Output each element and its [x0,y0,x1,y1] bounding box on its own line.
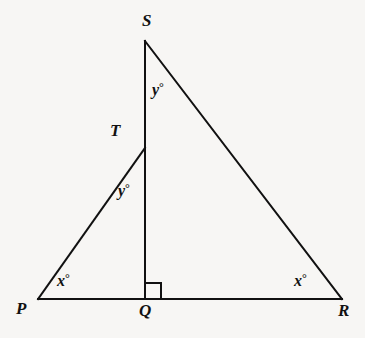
vertex-label-T: T [110,122,120,139]
vertex-label-Q: Q [139,302,151,319]
angle-label-x-at-P: x° [57,272,70,289]
right-angle-marker-at-Q [145,283,161,299]
angle-variable-x: x [57,272,65,289]
degree-sign: ° [302,271,307,285]
vertex-label-P: P [16,300,26,317]
degree-sign: ° [159,80,164,94]
degree-sign: ° [125,181,130,195]
angle-variable-x: x [294,272,302,289]
vertex-label-R: R [338,302,349,319]
diagram-canvas [0,0,365,338]
degree-sign: ° [65,271,70,285]
vertex-label-S: S [142,12,151,29]
angle-label-x-at-R: x° [294,272,307,289]
angle-label-y-at-T: y° [118,182,130,199]
geometry-figure: S T P Q R y° y° x° x° [0,0,365,338]
hypotenuse-line-PT [38,148,145,299]
hypotenuse-line-SR [145,41,342,299]
angle-label-y-at-S: y° [152,81,164,98]
